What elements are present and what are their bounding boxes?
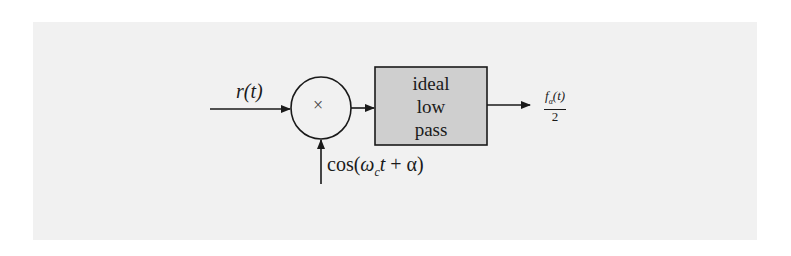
input-signal-label: r(t) <box>236 80 263 103</box>
carrier-omega: ω <box>360 153 374 175</box>
filter-label-line-2: low <box>417 95 446 118</box>
multiply-symbol: × <box>313 95 323 116</box>
output-signal-label: fα(t) 2 <box>544 88 566 124</box>
output-denominator: 2 <box>552 110 559 124</box>
filter-label: ideal low pass <box>375 67 487 145</box>
filter-label-line-3: pass <box>415 118 448 141</box>
carrier-label: cos(ωct + α) <box>327 153 424 180</box>
output-arg: (t) <box>553 88 565 103</box>
carrier-prefix: cos( <box>327 153 360 175</box>
filter-label-line-1: ideal <box>413 72 450 95</box>
output-numerator: fα(t) <box>544 88 566 110</box>
carrier-suffix: + α) <box>385 153 423 175</box>
